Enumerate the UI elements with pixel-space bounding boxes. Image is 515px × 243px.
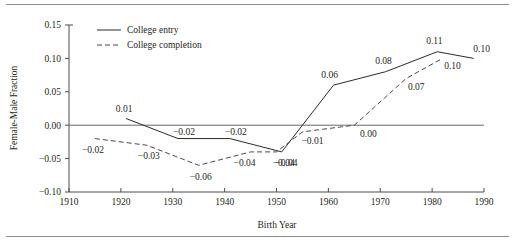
y-tick-label: 0.15 bbox=[44, 20, 61, 30]
figure-container: −0.10−0.050.000.050.100.15 1910192019301… bbox=[0, 0, 515, 243]
legend-label: College completion bbox=[127, 40, 202, 50]
data-point-label: −0.02 bbox=[225, 127, 247, 137]
x-tick-label: 1980 bbox=[423, 197, 442, 207]
chart-legend: College entryCollege completion bbox=[97, 25, 202, 50]
x-tick-label: 1930 bbox=[163, 197, 182, 207]
x-tick-label: 1970 bbox=[371, 197, 390, 207]
data-point-label: 0.10 bbox=[473, 44, 490, 54]
data-point-label: 0.01 bbox=[116, 104, 133, 114]
data-point-label: 0.11 bbox=[426, 36, 443, 46]
y-axis-title: Female-Male Fraction bbox=[9, 65, 19, 150]
data-point-label: −0.03 bbox=[138, 151, 160, 161]
series-line-dashed bbox=[95, 58, 443, 165]
data-point-label: 0.06 bbox=[321, 70, 338, 80]
data-point-label: −0.01 bbox=[301, 136, 323, 146]
x-axis-title: Birth Year bbox=[257, 220, 297, 230]
data-point-label: −0.04 bbox=[234, 158, 256, 168]
data-point-label: −0.02 bbox=[82, 145, 104, 155]
data-point-label: 0.10 bbox=[444, 61, 461, 71]
data-point-label: 0.00 bbox=[360, 129, 377, 139]
x-tick-label: 1950 bbox=[267, 197, 286, 207]
data-point-label: −0.02 bbox=[173, 127, 195, 137]
data-point-label: 0.07 bbox=[408, 82, 425, 92]
y-tick-label: −0.10 bbox=[39, 187, 61, 197]
line-chart: −0.10−0.050.000.050.100.15 1910192019301… bbox=[0, 0, 515, 243]
y-axis-ticks: −0.10−0.050.000.050.100.15 bbox=[39, 20, 73, 197]
x-tick-label: 1990 bbox=[475, 197, 494, 207]
data-point-label: −0.06 bbox=[190, 172, 212, 182]
data-point-labels: 0.01−0.02−0.02−0.040.060.080.110.10−0.02… bbox=[82, 36, 490, 183]
top-divider-rule bbox=[6, 4, 509, 5]
data-point-label: 0.08 bbox=[375, 56, 392, 66]
data-series-group bbox=[95, 52, 474, 166]
x-tick-label: 1940 bbox=[215, 197, 234, 207]
y-tick-label: 0.10 bbox=[44, 54, 61, 64]
bottom-divider-rule bbox=[6, 236, 509, 237]
y-tick-label: −0.05 bbox=[39, 154, 61, 164]
data-point-label: −0.04 bbox=[276, 158, 298, 168]
x-tick-label: 1920 bbox=[111, 197, 130, 207]
y-tick-label: 0.05 bbox=[44, 87, 61, 97]
y-tick-label: 0.00 bbox=[44, 121, 61, 131]
x-axis-ticks: 191019201930194019501960197019801990 bbox=[60, 188, 494, 207]
legend-label: College entry bbox=[127, 25, 179, 35]
x-tick-label: 1910 bbox=[60, 197, 79, 207]
x-tick-label: 1960 bbox=[319, 197, 338, 207]
series-line-solid bbox=[126, 52, 474, 152]
